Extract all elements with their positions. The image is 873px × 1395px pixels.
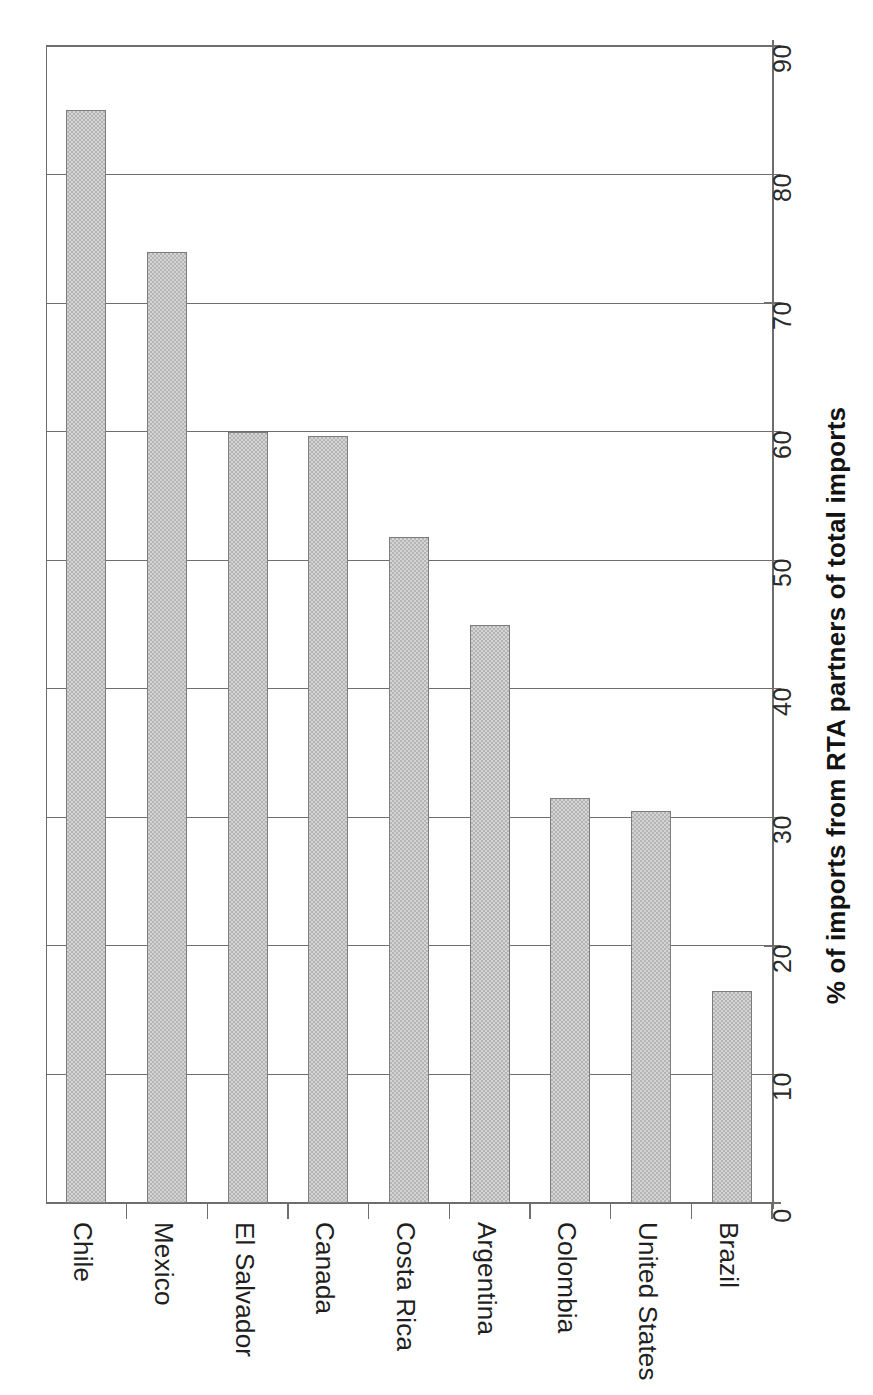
category-label: El Salvador: [232, 1222, 258, 1357]
bar: [308, 436, 348, 1203]
category-label: Costa Rica: [393, 1222, 419, 1351]
category-tickmark: [771, 1203, 772, 1219]
value-axis-tick-label: 20: [770, 944, 795, 973]
category-tickmark: [610, 1203, 611, 1219]
category-label: Brazil: [716, 1222, 742, 1288]
bar: [228, 432, 268, 1203]
category-label: United States: [635, 1222, 661, 1381]
value-axis-tick-label: 60: [770, 430, 795, 459]
bar: [712, 991, 752, 1203]
gridline: [46, 45, 772, 46]
value-axis-line: [772, 40, 774, 1209]
category-label: Mexico: [151, 1222, 177, 1306]
value-axis-tick-label: 90: [770, 44, 795, 73]
bar: [631, 811, 671, 1203]
value-axis-tick-label: 40: [770, 687, 795, 716]
category-label: Chile: [70, 1222, 96, 1282]
value-axis-tick-label: 30: [770, 815, 795, 844]
category-tickmark: [691, 1203, 692, 1219]
bar: [147, 252, 187, 1203]
category-tickmark: [368, 1203, 369, 1219]
bar: [550, 798, 590, 1203]
category-label: Canada: [312, 1222, 338, 1314]
value-axis-tick-label: 80: [770, 173, 795, 202]
value-axis-title: % of imports from RTA partners of total …: [821, 407, 852, 1004]
category-tickmark: [126, 1203, 127, 1219]
gridline: [46, 174, 772, 175]
category-tickmark: [207, 1203, 208, 1219]
category-tickmark: [287, 1203, 288, 1219]
bar: [389, 537, 429, 1203]
category-label: Argentina: [474, 1222, 500, 1335]
category-tickmark: [529, 1203, 530, 1219]
bar: [470, 625, 510, 1204]
bar-chart-figure: 0102030405060708090 ChileMexicoEl Salvad…: [0, 0, 873, 1395]
value-axis-tick-label: 10: [770, 1073, 795, 1102]
value-axis-tick-label: 70: [770, 301, 795, 330]
value-axis-tick-label: 0: [770, 1208, 795, 1222]
category-label: Colombia: [554, 1222, 580, 1333]
value-axis-tick-label: 50: [770, 558, 795, 587]
category-tickmark: [449, 1203, 450, 1219]
bar: [66, 110, 106, 1203]
